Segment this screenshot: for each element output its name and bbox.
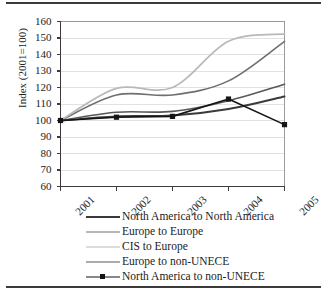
- y-tick-label: 140: [26, 49, 52, 60]
- y-tick-label: 60: [26, 181, 52, 192]
- legend-line-swatch: [86, 270, 120, 284]
- y-tick-label: 120: [26, 82, 52, 93]
- legend-item[interactable]: Europe to non-UNECE: [86, 254, 322, 269]
- legend-item[interactable]: North America to North America: [86, 209, 322, 224]
- y-tick-label: 100: [26, 115, 52, 126]
- y-tick-label: 110: [26, 98, 52, 109]
- legend-line-swatch: [86, 210, 120, 224]
- y-tick-label: 90: [26, 131, 52, 142]
- legend-line-swatch: [86, 255, 120, 269]
- chart-legend: North America to North AmericaEurope to …: [86, 209, 322, 284]
- legend-line-swatch: [86, 225, 120, 239]
- legend-label: North America to non-UNECE: [120, 270, 265, 283]
- y-tick-label: 70: [26, 164, 52, 175]
- legend-label: Europe to non-UNECE: [120, 255, 229, 268]
- y-tick-label: 130: [26, 65, 52, 76]
- legend-label: Europe to Europe: [120, 225, 203, 238]
- y-tick-label: 80: [26, 148, 52, 159]
- legend-line-swatch: [86, 240, 120, 254]
- y-tick-label: 150: [26, 32, 52, 43]
- figure: Index (2001=100) 60708090100110120130140…: [0, 0, 327, 294]
- legend-square-marker-icon: [100, 274, 105, 279]
- legend-item[interactable]: Europe to Europe: [86, 224, 322, 239]
- legend-item[interactable]: CIS to Europe: [86, 239, 322, 254]
- y-tick-label: 160: [26, 16, 52, 27]
- legend-item[interactable]: North America to non-UNECE: [86, 269, 322, 284]
- legend-label: North America to North America: [120, 210, 274, 223]
- legend-label: CIS to Europe: [120, 240, 188, 253]
